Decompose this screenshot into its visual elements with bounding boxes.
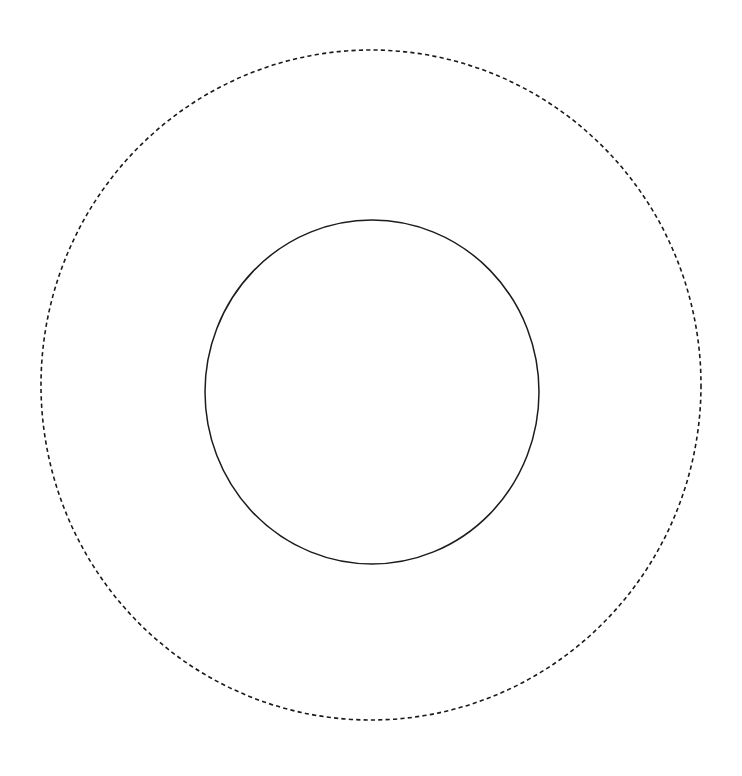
- concentric-circles-svg: [0, 0, 742, 776]
- canvas-background: [0, 0, 742, 776]
- diagram-canvas: [0, 0, 742, 776]
